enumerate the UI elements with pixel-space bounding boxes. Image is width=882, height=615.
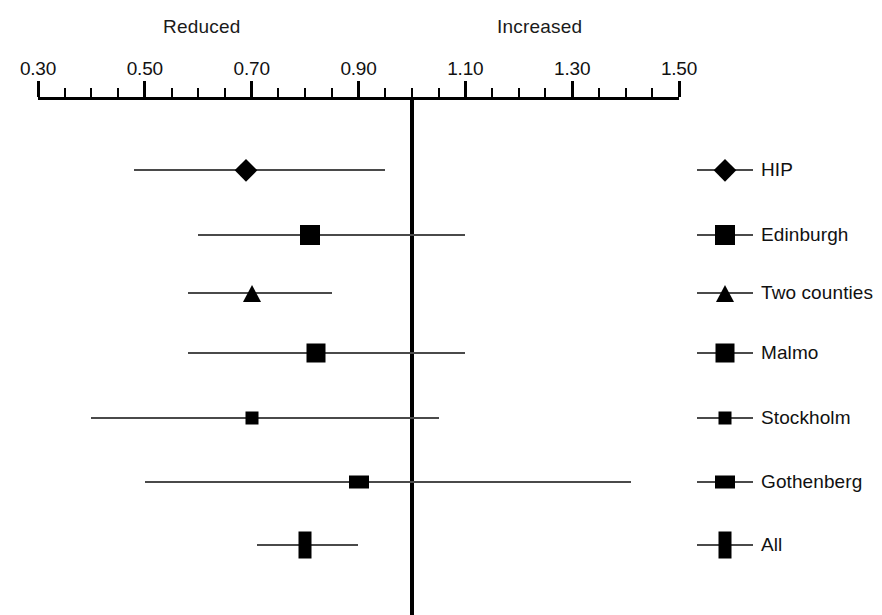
x-axis-major-tick <box>37 81 40 97</box>
x-axis-minor-tick <box>197 88 199 97</box>
marker-square <box>245 412 258 425</box>
x-axis-minor-tick <box>277 88 279 97</box>
marker-square <box>306 344 325 363</box>
marker-rect-tall <box>299 532 312 559</box>
confidence-interval-line <box>188 352 466 354</box>
legend-swatch <box>697 469 753 495</box>
legend-item-label: Two counties <box>761 282 873 304</box>
x-axis-minor-tick <box>64 88 66 97</box>
confidence-interval-line <box>134 169 385 171</box>
marker-triangle <box>243 285 261 302</box>
legend-item-all[interactable]: All <box>697 532 782 558</box>
legend-item-label: Gothenberg <box>761 471 862 493</box>
marker-square <box>719 412 732 425</box>
legend-swatch <box>697 222 753 248</box>
direction-label-reduced: Reduced <box>163 16 240 38</box>
x-axis-minor-tick <box>491 88 493 97</box>
legend-swatch <box>697 280 753 306</box>
forest-plot-figure: Reduced Increased 0.300.500.700.901.101.… <box>0 0 882 615</box>
legend-item-gothenberg[interactable]: Gothenberg <box>697 469 862 495</box>
legend-item-malmo[interactable]: Malmo <box>697 340 819 366</box>
x-tick-label: 1.30 <box>554 58 590 80</box>
x-tick-label: 0.70 <box>234 58 270 80</box>
x-axis-major-tick <box>678 81 681 97</box>
x-tick-label: 0.90 <box>340 58 376 80</box>
confidence-interval-line <box>91 417 438 419</box>
marker-square <box>715 225 735 245</box>
legend-item-two-counties[interactable]: Two counties <box>697 280 873 306</box>
x-axis-minor-tick <box>304 88 306 97</box>
x-axis-major-tick <box>357 81 360 97</box>
legend-item-label: Malmo <box>761 342 819 364</box>
x-axis-minor-tick <box>651 88 653 97</box>
direction-label-increased: Increased <box>497 16 582 38</box>
marker-square <box>716 344 735 363</box>
x-axis-minor-tick <box>411 88 413 97</box>
x-axis-minor-tick <box>171 88 173 97</box>
legend-swatch <box>697 532 753 558</box>
legend-item-edinburgh[interactable]: Edinburgh <box>697 222 849 248</box>
x-axis-minor-tick <box>438 88 440 97</box>
legend-item-label: Stockholm <box>761 407 851 429</box>
null-reference-line <box>410 97 414 615</box>
x-tick-label: 0.50 <box>127 58 163 80</box>
x-axis-minor-tick <box>518 88 520 97</box>
marker-square <box>300 225 320 245</box>
legend-item-stockholm[interactable]: Stockholm <box>697 405 851 431</box>
x-axis-minor-tick <box>384 88 386 97</box>
x-axis-major-tick <box>464 81 467 97</box>
x-axis-minor-tick <box>224 88 226 97</box>
marker-triangle <box>716 285 734 302</box>
legend-swatch <box>697 157 753 183</box>
legend-item-hip[interactable]: HIP <box>697 157 793 183</box>
marker-diamond <box>235 159 257 181</box>
x-tick-label: 1.50 <box>661 58 697 80</box>
x-axis-major-tick <box>143 81 146 97</box>
legend-item-label: Edinburgh <box>761 224 849 246</box>
marker-rect-wide <box>349 476 369 489</box>
x-axis-major-tick <box>250 81 253 97</box>
x-tick-label: 0.30 <box>20 58 56 80</box>
x-axis-minor-tick <box>117 88 119 97</box>
x-axis-minor-tick <box>544 88 546 97</box>
marker-rect-wide <box>715 476 735 489</box>
x-axis-minor-tick <box>331 88 333 97</box>
legend-swatch <box>697 405 753 431</box>
x-tick-label: 1.10 <box>447 58 483 80</box>
x-axis-minor-tick <box>598 88 600 97</box>
legend-item-label: All <box>761 534 782 556</box>
legend-item-label: HIP <box>761 159 793 181</box>
x-axis-major-tick <box>571 81 574 97</box>
marker-rect-tall <box>719 532 732 559</box>
marker-diamond <box>714 159 736 181</box>
x-axis-minor-tick <box>90 88 92 97</box>
legend-swatch <box>697 340 753 366</box>
x-axis-line <box>38 97 679 100</box>
x-axis-minor-tick <box>625 88 627 97</box>
confidence-interval-line <box>145 481 631 483</box>
confidence-interval-line <box>198 234 465 236</box>
